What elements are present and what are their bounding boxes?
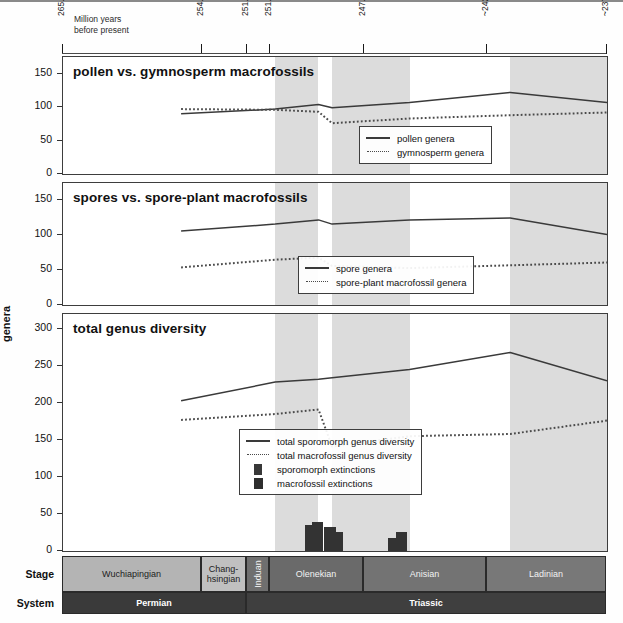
- y-axis-tick: [57, 476, 62, 477]
- legend-label: spore-plant macrofossil genera: [336, 277, 466, 288]
- legend-entry: gymnosperm genera: [365, 145, 484, 159]
- legend-label: macrofossil extinctions: [277, 478, 373, 489]
- legend-entry: macrofossil extinctions: [245, 476, 414, 490]
- y-axis-tick-label: 50: [10, 262, 52, 274]
- panel-legend: spore generaspore-plant macrofossil gene…: [298, 256, 474, 294]
- y-axis-tick-label: 100: [10, 469, 52, 481]
- stage-cell[interactable]: Wuchiapingian: [62, 556, 201, 592]
- chart-panel: pollen vs. gymnosperm macrofossilspollen…: [62, 56, 608, 175]
- y-axis-tick: [57, 106, 62, 107]
- legend-entry: total sporomorph genus diversity: [245, 434, 414, 448]
- y-axis-tick-label: 0: [10, 166, 52, 178]
- legend-dotted-line-icon: [245, 450, 271, 460]
- y-axis-tick: [57, 402, 62, 403]
- legend-entry: pollen genera: [365, 131, 484, 145]
- y-axis-tick-label: 300: [10, 321, 52, 333]
- stage-label: Chang-hsingian: [207, 564, 241, 584]
- system-label: Permian: [136, 598, 172, 608]
- axis-tick-mark: [606, 44, 607, 54]
- y-axis-tick: [57, 365, 62, 366]
- legend-dark-square-small-icon: [245, 464, 271, 474]
- legend-entry: spore genera: [304, 261, 466, 275]
- stage-cell[interactable]: Chang-hsingian: [201, 556, 246, 592]
- y-axis-tick: [57, 513, 62, 514]
- axis-tick-label: 251.902: [240, 0, 250, 16]
- stage-cell[interactable]: Induan: [246, 556, 269, 592]
- y-axis-tick-label: 100: [10, 227, 52, 239]
- y-axis-tick-label: 150: [10, 66, 52, 78]
- axis-note-line2: before present: [74, 25, 129, 36]
- legend-label: pollen genera: [397, 133, 455, 144]
- axis-tick-label: 247.2: [357, 0, 367, 16]
- y-axis-tick-label: 150: [10, 192, 52, 204]
- y-axis-tick: [57, 328, 62, 329]
- data-series-line: [181, 92, 607, 113]
- system-row-label: System: [2, 597, 54, 609]
- data-series-line: [181, 353, 607, 401]
- panel-legend: total sporomorph genus diversitytotal ma…: [239, 429, 422, 495]
- stage-label: Wuchiapingian: [102, 569, 161, 579]
- stage-label: Induan: [253, 560, 263, 588]
- y-axis-tick: [57, 550, 62, 551]
- y-axis-tick: [57, 304, 62, 305]
- chart-panel: spores vs. spore-plant macrofossilsspore…: [62, 182, 608, 306]
- y-axis-tick-label: 50: [10, 133, 52, 145]
- y-axis-tick: [57, 173, 62, 174]
- series-layer: [63, 57, 607, 174]
- stage-label: Ladinian: [529, 569, 563, 579]
- y-axis-title: genera: [0, 306, 12, 342]
- y-axis-tick-label: 0: [10, 543, 52, 555]
- axis-tick-label: ~237: [600, 0, 610, 16]
- y-axis-tick-label: 50: [10, 506, 52, 518]
- top-axis-line: [62, 53, 606, 54]
- figure-root: Million years before present 265.1254.14…: [0, 0, 623, 623]
- legend-entry: sporomorph extinctions: [245, 462, 414, 476]
- data-series-line: [181, 218, 607, 235]
- system-cell[interactable]: Triassic: [246, 592, 606, 614]
- axis-tick-label: 254.14: [195, 0, 205, 16]
- legend-label: spore genera: [336, 263, 392, 274]
- chart-panel: total genus diversitytotal sporomorph ge…: [62, 313, 608, 552]
- legend-label: total sporomorph genus diversity: [277, 436, 414, 447]
- legend-label: sporomorph extinctions: [277, 464, 375, 475]
- stage-cell[interactable]: Anisian: [363, 556, 486, 592]
- axis-tick-label: 265.1: [56, 0, 66, 16]
- y-axis-tick: [57, 199, 62, 200]
- y-axis-tick: [57, 140, 62, 141]
- axis-note: Million years before present: [74, 14, 129, 36]
- y-axis-tick-label: 250: [10, 358, 52, 370]
- axis-note-line1: Million years: [74, 14, 129, 25]
- legend-solid-line-icon: [365, 133, 391, 143]
- legend-dark-square-icon: [245, 478, 271, 488]
- stage-label: Olenekian: [296, 569, 337, 579]
- stage-row-label: Stage: [2, 568, 54, 580]
- legend-dotted-line-icon: [304, 277, 330, 287]
- legend-label: total macrofossil genus diversity: [277, 450, 412, 461]
- stage-label: Anisian: [410, 569, 440, 579]
- legend-solid-line-icon: [304, 263, 330, 273]
- legend-label: gymnosperm genera: [397, 147, 484, 158]
- axis-tick-label: 251.2: [263, 0, 273, 16]
- y-axis-tick: [57, 234, 62, 235]
- panel-legend: pollen generagymnosperm genera: [359, 126, 492, 164]
- legend-dotted-line-icon: [365, 147, 391, 157]
- y-axis-tick-label: 200: [10, 395, 52, 407]
- y-axis-tick: [57, 269, 62, 270]
- y-axis-tick-label: 100: [10, 99, 52, 111]
- stage-cell[interactable]: Olenekian: [269, 556, 363, 592]
- y-axis-tick: [57, 73, 62, 74]
- legend-solid-line-icon: [245, 436, 271, 446]
- axis-tick-label: ~242: [480, 0, 490, 16]
- stage-cell[interactable]: Ladinian: [486, 556, 606, 592]
- legend-entry: total macrofossil genus diversity: [245, 448, 414, 462]
- legend-entry: spore-plant macrofossil genera: [304, 275, 466, 289]
- system-cell[interactable]: Permian: [62, 592, 246, 614]
- y-axis-tick: [57, 439, 62, 440]
- system-label: Triassic: [409, 598, 443, 608]
- y-axis-tick-label: 0: [10, 297, 52, 309]
- y-axis-tick-label: 150: [10, 432, 52, 444]
- figure-top-rule: [0, 0, 623, 2]
